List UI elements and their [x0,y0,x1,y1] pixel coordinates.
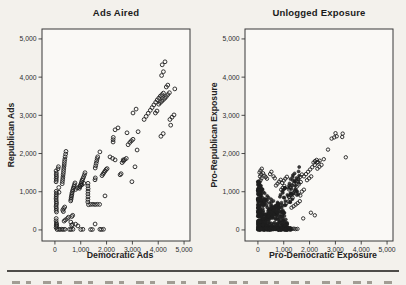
chart-title-unlogged-exposure: Unlogged Exposure [245,7,393,18]
chart-title-ads-aired: Ads Aired [42,7,190,18]
scatter-plots-canvas: 01,0002,0003,0004,0005,00001,0002,0003,0… [0,0,406,268]
y-axis-label-republican-ads: Republican Ads [6,103,16,168]
svg-text:5,000: 5,000 [19,35,36,42]
svg-text:0: 0 [33,226,37,233]
svg-text:0: 0 [236,226,240,233]
plot-0: 01,0002,0003,0004,0005,00001,0002,0003,0… [19,29,192,253]
figure-page: 01,0002,0003,0004,0005,00001,0002,0003,0… [0,0,406,285]
y-axis-label-pro-republican-exposure: Pro-Republican Exposure [209,82,219,187]
clipped-caption-line [12,281,394,284]
svg-text:1,000: 1,000 [222,188,239,195]
plot-1: 01,0002,0003,0004,0005,00001,0002,0003,0… [222,29,395,253]
svg-text:2,000: 2,000 [19,150,36,157]
svg-text:3,000: 3,000 [19,112,36,119]
svg-text:3,000: 3,000 [222,112,239,119]
footer-divider-rule [7,270,399,272]
svg-text:4,000: 4,000 [19,74,36,81]
svg-text:5,000: 5,000 [222,35,239,42]
svg-text:1,000: 1,000 [19,188,36,195]
svg-text:2,000: 2,000 [222,150,239,157]
svg-text:4,000: 4,000 [222,74,239,81]
x-axis-label-pro-democratic-exposure: Pro-Democratic Exposure [243,250,403,260]
x-axis-label-democratic-ads: Democratic Ads [40,250,200,260]
